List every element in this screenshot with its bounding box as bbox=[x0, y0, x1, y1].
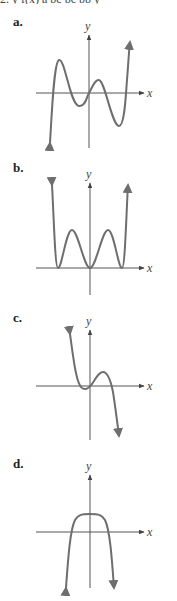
graph-b: x y bbox=[36, 167, 153, 295]
curve-c bbox=[70, 334, 119, 436]
y-axis-label: y bbox=[85, 459, 92, 473]
x-axis-label: x bbox=[146, 379, 153, 393]
graph-d: x y bbox=[36, 459, 153, 588]
x-axis-label: x bbox=[146, 261, 153, 275]
graphs-figure: x y x y x y x y bbox=[0, 0, 177, 601]
x-axis-label: x bbox=[146, 86, 153, 100]
y-axis-label: y bbox=[84, 19, 91, 33]
y-axis-label: y bbox=[85, 314, 92, 328]
x-axis-label: x bbox=[146, 525, 153, 539]
graph-c: x y bbox=[36, 314, 153, 440]
graph-a: x y bbox=[36, 19, 153, 148]
y-axis-label: y bbox=[85, 167, 92, 181]
